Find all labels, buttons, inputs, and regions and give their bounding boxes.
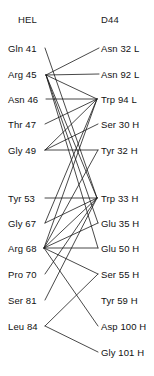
residue-label-r3: Ser 30 H <box>101 119 139 130</box>
residue-label-r5: Trp 33 H <box>101 193 138 204</box>
residue-label-r11: Gly 101 H <box>101 347 144 358</box>
contact-map-diagram: HEL D44 Gln 41Arg 45Asn 46Thr 47Gly 49Ty… <box>0 0 154 376</box>
contact-edge <box>46 48 99 75</box>
column-header-left: HEL <box>18 14 37 25</box>
contact-edge <box>46 75 97 198</box>
contact-edge <box>45 326 98 352</box>
residue-label-r6: Glu 35 H <box>101 218 139 229</box>
column-header-right: D44 <box>101 14 119 25</box>
contact-edge <box>45 48 97 198</box>
contact-edge <box>45 198 97 300</box>
contact-edge <box>45 99 97 124</box>
contact-edge <box>45 124 98 150</box>
contact-edge <box>46 75 98 248</box>
residue-label-l1: Arg 45 <box>8 69 37 80</box>
contact-edge <box>45 99 97 223</box>
contact-edge <box>44 248 98 274</box>
residue-label-r2: Trp 94 L <box>101 94 137 105</box>
residue-label-r8: Ser 55 H <box>101 269 139 280</box>
contact-edge <box>46 74 99 75</box>
residue-label-r1: Asn 92 L <box>101 69 139 80</box>
contact-edge <box>45 198 97 223</box>
residue-label-l5: Tyr 53 <box>8 193 35 204</box>
residue-label-r0: Asn 32 L <box>101 43 139 54</box>
residue-label-r4: Tyr 32 H <box>101 145 138 156</box>
residue-label-l2: Asn 46 <box>8 94 38 105</box>
contact-edge <box>45 274 98 326</box>
residue-label-r10: Asp 100 H <box>101 321 146 332</box>
contact-edge <box>45 198 97 274</box>
residue-label-l6: Gly 67 <box>8 218 36 229</box>
residue-label-l4: Gly 49 <box>8 145 36 156</box>
contact-edge <box>44 223 98 248</box>
contact-edge <box>44 99 97 248</box>
residue-label-r7: Glu 50 H <box>101 243 139 254</box>
residue-label-l7: Arg 68 <box>8 243 37 254</box>
residue-label-l9: Ser 81 <box>8 295 37 306</box>
contact-edge <box>44 150 98 248</box>
contact-edge <box>46 75 98 223</box>
contact-edge <box>46 75 97 99</box>
residue-label-l10: Leu 84 <box>8 321 38 332</box>
residue-label-r9: Tyr 59 H <box>101 295 138 306</box>
residue-label-l3: Thr 47 <box>8 119 36 130</box>
residue-label-l8: Pro 70 <box>8 269 37 280</box>
contact-edge <box>44 248 98 326</box>
contact-edge <box>45 99 97 150</box>
residue-label-l0: Gln 41 <box>8 43 37 54</box>
contact-edge <box>44 198 97 248</box>
